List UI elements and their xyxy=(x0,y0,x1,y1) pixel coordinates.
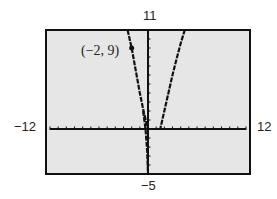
point-marker xyxy=(129,46,134,51)
ymin-label: −5 xyxy=(141,178,156,193)
ymax-label: 11 xyxy=(143,8,157,23)
graph-canvas xyxy=(0,0,277,199)
xmin-label: −12 xyxy=(14,119,36,134)
xmax-label: 12 xyxy=(257,119,271,134)
point-label: (−2, 9) xyxy=(81,43,119,59)
